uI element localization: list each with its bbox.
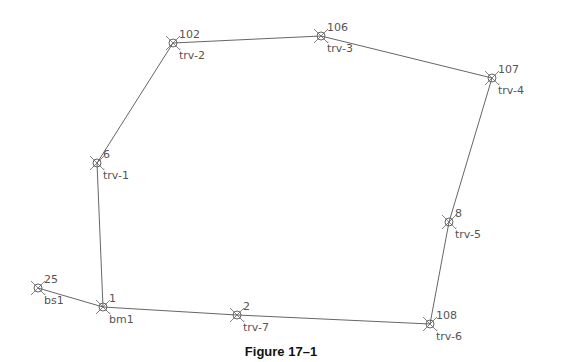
survey-point: 107trv-4 xyxy=(485,63,524,97)
point-description: trv-5 xyxy=(455,228,481,241)
survey-point: 6trv-1 xyxy=(90,148,129,182)
traverse-segment xyxy=(97,163,103,307)
point-number: 108 xyxy=(436,309,457,322)
point-description: trv-7 xyxy=(243,321,269,334)
point-number: 6 xyxy=(103,148,110,161)
traverse-diagram: 25bs11bm12trv-7108trv-68trv-5107trv-4106… xyxy=(0,0,562,362)
point-markers: 25bs11bm12trv-7108trv-68trv-5107trv-4106… xyxy=(31,21,524,343)
survey-point: 8trv-5 xyxy=(442,207,481,241)
point-number: 106 xyxy=(327,21,348,34)
point-number: 107 xyxy=(498,63,519,76)
point-number: 8 xyxy=(455,207,462,220)
traverse-segment xyxy=(97,43,173,163)
figure-caption: Figure 17–1 xyxy=(0,344,562,359)
point-description: trv-3 xyxy=(327,42,353,55)
point-description: bs1 xyxy=(44,294,64,307)
point-number: 102 xyxy=(179,28,200,41)
point-description: trv-2 xyxy=(179,49,205,62)
survey-point: 108trv-6 xyxy=(423,309,462,343)
survey-point: 106trv-3 xyxy=(314,21,353,55)
survey-point: 25bs1 xyxy=(31,273,64,307)
point-description: trv-4 xyxy=(498,84,524,97)
point-description: bm1 xyxy=(109,313,134,326)
point-description: trv-1 xyxy=(103,169,129,182)
survey-point: 2trv-7 xyxy=(230,300,269,334)
point-number: 25 xyxy=(44,273,58,286)
point-description: trv-6 xyxy=(436,330,462,343)
point-number: 1 xyxy=(109,292,116,305)
traverse-segment xyxy=(449,78,492,222)
survey-point: 1bm1 xyxy=(96,292,134,326)
point-number: 2 xyxy=(243,300,250,313)
